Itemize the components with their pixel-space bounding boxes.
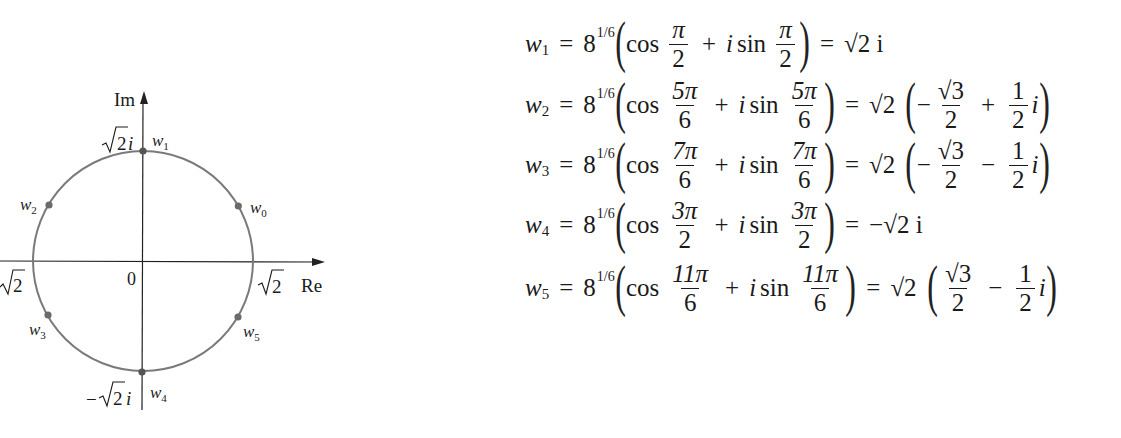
sin-fn: sin (749, 211, 778, 239)
cos-arg: 11π6 (669, 260, 711, 317)
imaginary-axis-label: Im (114, 89, 135, 110)
tick-pos-imag: 2 i (102, 127, 133, 154)
tick-neg-real: 2 (0, 270, 25, 296)
base: 8 (583, 211, 596, 239)
imag-unit: i (738, 91, 745, 119)
point-w0 (235, 202, 242, 209)
im-sign: − (988, 274, 1002, 302)
point-w3 (44, 311, 51, 318)
imag-unit: i (738, 151, 745, 179)
equation-w4: w4 = 81/6 ( cos 3π2 + isin 3π2 ) = −√2 i (525, 195, 923, 255)
equals-sign: = (820, 30, 834, 58)
right-paren: ) (799, 13, 810, 71)
svg-text:i: i (126, 388, 131, 409)
lhs-sub: 1 (542, 42, 550, 59)
imag-unit: i (749, 274, 756, 302)
right-paren: ) (845, 257, 856, 315)
sin-arg: 5π6 (789, 77, 820, 134)
label-w3: w3 (29, 320, 46, 341)
exponent: 1/6 (597, 146, 615, 162)
equation-w3: w3 = 81/6 ( cos 7π6 + isin 7π6 ) = √2 ( … (525, 135, 1050, 195)
sin-arg: 7π6 (789, 137, 820, 194)
plus-sign: + (714, 151, 728, 179)
result-coeff: √2 (869, 151, 895, 179)
base: 8 (583, 30, 596, 58)
left-paren: ( (615, 13, 626, 71)
lhs-sub: 3 (542, 163, 550, 180)
imag-unit: i (1032, 91, 1039, 119)
imag-unit: i (1039, 274, 1046, 302)
label-w0: w0 (250, 198, 267, 219)
equals-sign: = (559, 211, 573, 239)
lhs-sub: 4 (542, 223, 550, 240)
plus-sign: + (714, 211, 728, 239)
exponent: 1/6 (597, 269, 615, 285)
tick-neg-imag: − 2 i (86, 382, 131, 410)
base: 8 (583, 91, 596, 119)
equals-sign: = (559, 151, 573, 179)
cos-arg: 5π6 (669, 77, 700, 134)
cos-arg: π2 (669, 16, 688, 73)
point-w4 (138, 368, 145, 375)
equation-w1: w1 = 81/6 ( cos π2 + isin π2 ) = √2 i (525, 14, 884, 74)
right-paren: ) (824, 194, 835, 252)
sin-fn: sin (749, 151, 778, 179)
cos-fn: cos (626, 91, 659, 119)
equals-sign: = (866, 274, 880, 302)
right-paren: ) (1046, 257, 1057, 315)
re-part: √32 (942, 260, 974, 317)
sin-fn: sin (737, 30, 766, 58)
im-part: 12 (1009, 77, 1028, 134)
lhs-sub: 2 (542, 103, 550, 120)
equals-sign: = (845, 211, 859, 239)
im-part: 12 (1009, 137, 1028, 194)
imag-unit: i (738, 211, 745, 239)
imag-unit: i (1032, 151, 1039, 179)
real-axis (0, 261, 318, 262)
sin-fn: sin (749, 91, 778, 119)
sin-fn: sin (760, 274, 789, 302)
base: 8 (583, 151, 596, 179)
label-w5: w5 (243, 322, 260, 343)
svg-text:−: − (86, 389, 97, 410)
right-paren: ) (824, 134, 835, 192)
left-paren: ( (906, 74, 917, 132)
left-paren: ( (615, 194, 626, 252)
lhs-var: w (525, 151, 542, 179)
label-w4: w4 (150, 383, 167, 404)
equals-sign: = (845, 91, 859, 119)
plus-sign: + (714, 91, 728, 119)
equals-sign: = (845, 151, 859, 179)
right-paren: ) (1039, 74, 1050, 132)
exponent: 1/6 (597, 25, 615, 41)
imaginary-axis-arrow-icon (140, 91, 148, 104)
right-paren: ) (824, 74, 835, 132)
sin-arg: 11π6 (799, 260, 841, 317)
left-paren: ( (906, 134, 917, 192)
argand-diagram: Im Re 0 2 i − 2 i 2 2 w0 w1 w2 w3 w4 w5 (0, 0, 340, 438)
svg-text:2: 2 (13, 275, 23, 296)
lhs-var: w (525, 211, 542, 239)
left-paren: ( (615, 74, 626, 132)
base: 8 (583, 274, 596, 302)
real-axis-label: Re (301, 275, 322, 296)
lhs-var: w (525, 274, 542, 302)
cos-fn: cos (626, 274, 659, 302)
point-w2 (45, 201, 52, 208)
result: √2 i (844, 30, 883, 58)
re-sign: − (917, 151, 931, 179)
origin-label: 0 (127, 269, 136, 289)
tick-pos-real: 2 (258, 270, 284, 297)
result: −√2 i (869, 211, 923, 239)
imaginary-axis (142, 100, 143, 410)
exponent: 1/6 (597, 206, 615, 222)
point-w1 (139, 147, 146, 154)
re-part: √32 (935, 77, 967, 134)
equals-sign: = (559, 91, 573, 119)
cos-fn: cos (626, 211, 659, 239)
imag-unit: i (726, 30, 733, 58)
svg-text:2: 2 (117, 133, 127, 154)
cos-arg: 3π2 (669, 197, 700, 254)
cos-fn: cos (626, 151, 659, 179)
left-paren: ( (615, 134, 626, 192)
